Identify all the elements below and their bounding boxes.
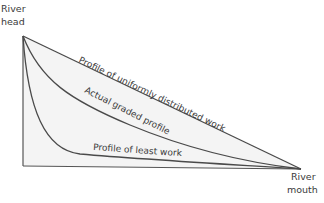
river-profile-diagram: River head River mouth Profile of unifor…	[0, 0, 324, 203]
river-mouth-label-line2: mouth	[287, 184, 318, 195]
river-mouth-label: River	[291, 171, 316, 182]
river-head-label: River	[1, 3, 26, 14]
river-head-label-line2: head	[1, 16, 25, 27]
